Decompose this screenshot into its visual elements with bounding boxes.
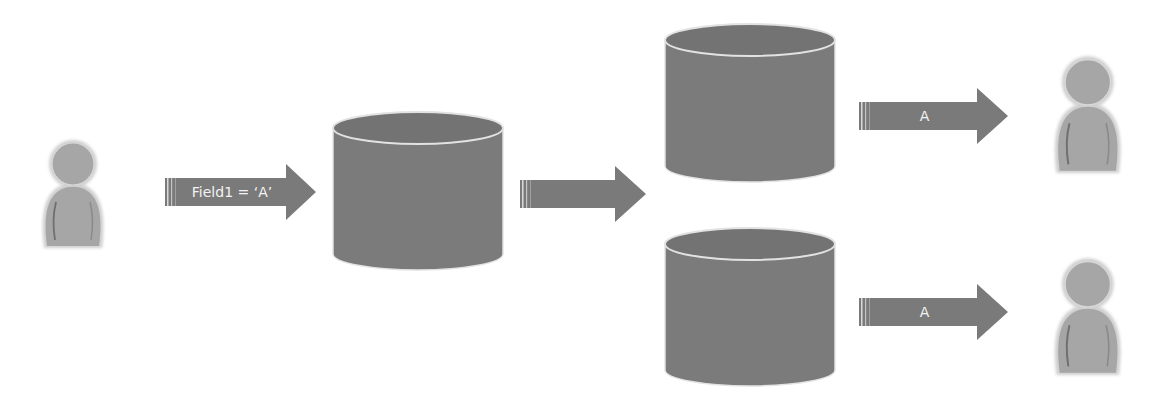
arrow-read-2-label: A [872, 305, 977, 319]
arrow-write-label: Field1 = ‘A’ [178, 185, 286, 199]
database-replica-1-icon [665, 24, 835, 182]
database-replica-2-icon [665, 228, 835, 386]
user-source-icon [43, 140, 104, 248]
database-central-icon [333, 112, 503, 270]
user-target-2-icon [1055, 258, 1121, 375]
diagram-canvas [0, 0, 1171, 404]
user-target-1-icon [1055, 56, 1121, 173]
arrow-read-1-label: A [872, 109, 977, 123]
arrow-replicate [520, 166, 646, 222]
